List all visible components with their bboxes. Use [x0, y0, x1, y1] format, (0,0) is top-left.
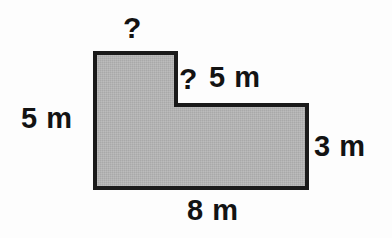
- diagram-canvas: ? ? 5 m 5 m 3 m 8 m: [0, 0, 392, 238]
- left-dimension-label: 5 m: [21, 104, 72, 133]
- bottom-dimension-label: 8 m: [187, 196, 238, 225]
- inner-edge-unknown-label: ?: [179, 64, 198, 94]
- top-edge-unknown-label: ?: [123, 13, 142, 43]
- l-shape-polygon: [95, 53, 307, 188]
- top-right-dimension-label: 5 m: [209, 63, 260, 92]
- right-dimension-label: 3 m: [314, 132, 365, 161]
